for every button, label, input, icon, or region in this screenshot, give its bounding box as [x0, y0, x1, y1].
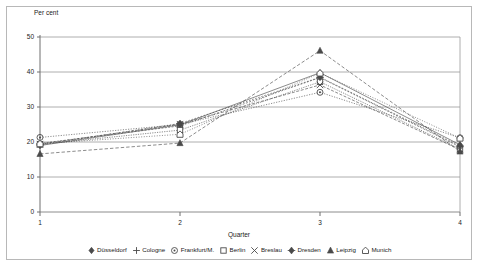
- plot-area: [0, 0, 478, 266]
- y-tick-label: 30: [16, 103, 34, 110]
- x-tick-label: 4: [453, 219, 467, 226]
- y-tick-label: 20: [16, 138, 34, 145]
- triangle-filled-icon: [326, 246, 335, 255]
- square-open-icon: [219, 246, 228, 255]
- legend-item-munich[interactable]: Munich: [361, 246, 391, 255]
- series-berlin: [37, 79, 462, 152]
- legend-label: Berlin: [230, 247, 246, 253]
- x-tick-label: 3: [313, 219, 327, 226]
- legend-item-d-sseldorf[interactable]: Düsseldorf: [87, 246, 127, 255]
- y-tick-label: 0: [16, 208, 34, 215]
- circle-dot-icon: [170, 246, 179, 255]
- legend-label: Frankfurt/M.: [181, 247, 214, 253]
- line-chart: Per cent 01020304050 1234 Quarter Düssel…: [0, 0, 478, 266]
- legend-item-berlin[interactable]: Berlin: [219, 246, 245, 255]
- y-tick-label: 10: [16, 173, 34, 180]
- x-tick-label: 1: [33, 219, 47, 226]
- y-tick-label: 50: [16, 33, 34, 40]
- legend-label: Dresden: [297, 247, 320, 253]
- legend-label: Breslau: [261, 247, 282, 253]
- diamond-plus-icon: [287, 246, 296, 255]
- legend-item-frankfurt-m-[interactable]: Frankfurt/M.: [170, 246, 214, 255]
- x-tick-label: 2: [173, 219, 187, 226]
- legend-label: Cologne: [142, 247, 165, 253]
- diamond-filled-icon: [87, 246, 96, 255]
- x-axis-title: Quarter: [0, 231, 478, 238]
- y-tick-label: 40: [16, 68, 34, 75]
- legend-label: Munich: [371, 247, 391, 253]
- house-open-icon: [361, 246, 370, 255]
- legend-item-leipzig[interactable]: Leipzig: [326, 246, 356, 255]
- legend-label: Leipzig: [336, 247, 356, 253]
- series-d-sseldorf: [37, 70, 462, 149]
- legend-item-breslau[interactable]: Breslau: [250, 246, 281, 255]
- series-cologne: [37, 74, 464, 150]
- legend-item-cologne[interactable]: Cologne: [132, 246, 166, 255]
- legend-item-dresden[interactable]: Dresden: [287, 246, 321, 255]
- legend-label: Düsseldorf: [97, 247, 127, 253]
- chart-legend: DüsseldorfCologneFrankfurt/M.BerlinBresl…: [0, 246, 478, 255]
- x-cross-icon: [250, 246, 259, 255]
- plus-icon: [132, 246, 141, 255]
